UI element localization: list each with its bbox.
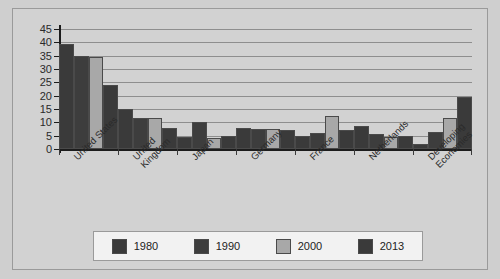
- legend-label: 2000: [298, 240, 322, 252]
- bar-groups: [59, 29, 472, 149]
- legend-item: 1990: [194, 239, 240, 254]
- bar-group: [177, 29, 236, 149]
- bar-group: [118, 29, 177, 149]
- y-tick-label: 0: [46, 144, 52, 155]
- bar: [177, 137, 192, 149]
- y-tick-label: 45: [40, 24, 52, 35]
- legend-label: 1980: [134, 240, 158, 252]
- plot-area: 051015202530354045: [59, 29, 472, 149]
- legend-swatch: [112, 239, 127, 254]
- legend-label: 1990: [216, 240, 240, 252]
- bar: [295, 136, 310, 149]
- chart-frame: 051015202530354045 United StatesUnited K…: [12, 8, 488, 270]
- bar: [339, 130, 354, 149]
- y-tick-label: 5: [46, 130, 52, 141]
- bar: [118, 109, 133, 149]
- bar-group: [295, 29, 354, 149]
- bar: [221, 136, 236, 149]
- chart-screenshot: 051015202530354045 United StatesUnited K…: [0, 0, 500, 279]
- legend-swatch: [194, 239, 209, 254]
- y-tick-label: 10: [40, 117, 52, 128]
- bar: [354, 126, 369, 149]
- y-tick-label: 25: [40, 77, 52, 88]
- y-tick-label: 30: [40, 64, 52, 75]
- bar-group: [236, 29, 295, 149]
- legend-swatch: [358, 239, 373, 254]
- legend-label: 2013: [380, 240, 404, 252]
- x-axis-category-labels: United StatesUnited KingdomJapanGermanyF…: [59, 155, 472, 219]
- bar: [74, 56, 89, 149]
- legend-item: 2000: [276, 239, 322, 254]
- y-tick-label: 35: [40, 50, 52, 61]
- legend-item: 2013: [358, 239, 404, 254]
- y-tick-label: 15: [40, 104, 52, 115]
- chart-legend: 1980199020002013: [93, 231, 423, 261]
- legend-item: 1980: [112, 239, 158, 254]
- legend-swatch: [276, 239, 291, 254]
- bar: [398, 136, 413, 149]
- y-tick-label: 20: [40, 90, 52, 101]
- bar: [236, 128, 251, 149]
- y-tick-label: 40: [40, 37, 52, 48]
- bar: [59, 44, 74, 149]
